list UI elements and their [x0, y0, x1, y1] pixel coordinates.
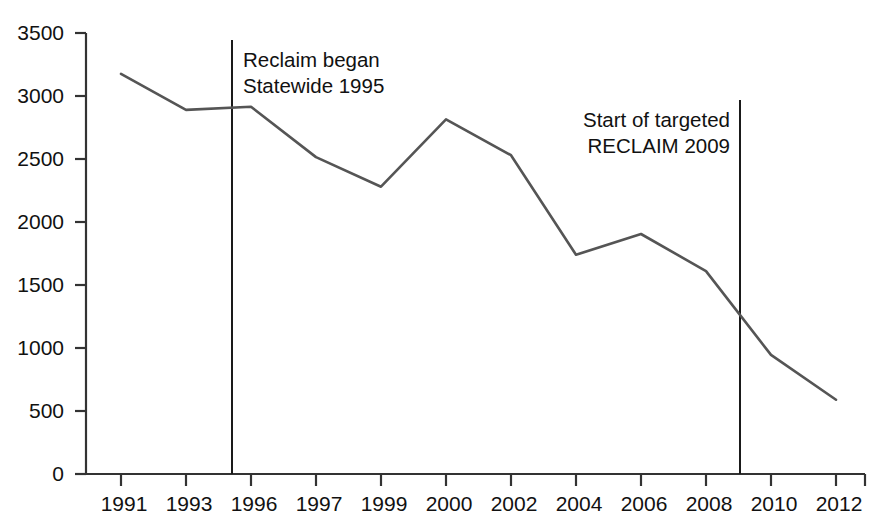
- x-tick-label-2002: 2002: [491, 492, 538, 516]
- annotation-targeted-reclaim-line1: Start of targeted: [470, 107, 730, 133]
- y-tick-label-0: 0: [0, 462, 64, 486]
- y-tick-label-1500: 1500: [0, 273, 64, 297]
- x-tick-label-1997: 1997: [296, 492, 343, 516]
- y-tick-label-3000: 3000: [0, 84, 64, 108]
- x-tick-label-1999: 1999: [361, 492, 408, 516]
- x-tick-label-2012: 2012: [816, 492, 863, 516]
- x-tick-label-1993: 1993: [166, 492, 213, 516]
- annotation-targeted-reclaim: Start of targeted RECLAIM 2009: [470, 107, 730, 159]
- x-tick-marks: [121, 474, 865, 486]
- chart-figure: 3500 3000 2500 2000 1500 1000 500 0 1991…: [0, 0, 881, 532]
- y-tick-marks: [75, 33, 86, 474]
- y-tick-label-2500: 2500: [0, 147, 64, 171]
- annotation-targeted-reclaim-line2: RECLAIM 2009: [470, 133, 730, 159]
- annotation-reclaim-began: Reclaim began Statewide 1995: [243, 47, 384, 99]
- x-tick-label-2000: 2000: [426, 492, 473, 516]
- x-tick-label-2010: 2010: [751, 492, 798, 516]
- x-tick-label-1991: 1991: [101, 492, 148, 516]
- y-tick-label-3500: 3500: [0, 21, 64, 45]
- x-tick-label-2008: 2008: [686, 492, 733, 516]
- y-tick-label-2000: 2000: [0, 210, 64, 234]
- y-tick-label-500: 500: [0, 399, 64, 423]
- x-tick-label-1996: 1996: [231, 492, 278, 516]
- y-tick-label-1000: 1000: [0, 336, 64, 360]
- line-chart-canvas: [0, 0, 881, 532]
- x-tick-label-2004: 2004: [556, 492, 603, 516]
- x-tick-label-2006: 2006: [621, 492, 668, 516]
- annotation-reclaim-began-line1: Reclaim began: [243, 47, 384, 73]
- annotation-reclaim-began-line2: Statewide 1995: [243, 73, 384, 99]
